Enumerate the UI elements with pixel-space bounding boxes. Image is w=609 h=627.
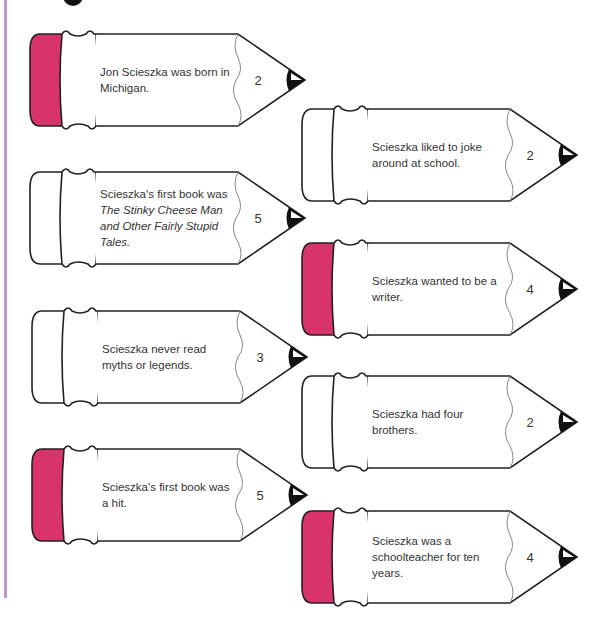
pencil-card-l1: Jon Scieszka was born in Michigan. 2 bbox=[26, 30, 308, 130]
pencil-card-l4: Scieszka's first book was a hit. 5 bbox=[28, 445, 310, 545]
pencil-statement: Scieszka liked to joke around at school. bbox=[372, 105, 508, 205]
pencil-number: 5 bbox=[248, 168, 268, 268]
pencil-number: 2 bbox=[248, 30, 268, 130]
pencil-statement: Scieszka wanted to be a writer. bbox=[372, 239, 508, 339]
pencil-statement: Scieszka's first book was The Stinky Che… bbox=[100, 168, 236, 268]
pencil-number: 5 bbox=[250, 445, 270, 545]
pencil-number: 2 bbox=[520, 105, 540, 205]
pencil-number: 3 bbox=[250, 307, 270, 407]
page-margin-rule bbox=[4, 0, 7, 598]
pencil-number: 4 bbox=[520, 507, 540, 607]
pencil-statement: Jon Scieszka was born in Michigan. bbox=[100, 30, 236, 130]
pencil-statement: Scieszka was a schoolteacher for ten yea… bbox=[372, 507, 508, 607]
pencil-statement: Scieszka had four brothers. bbox=[372, 372, 508, 472]
pencil-card-r4: Scieszka was a schoolteacher for ten yea… bbox=[298, 507, 580, 607]
pencil-card-r2: Scieszka wanted to be a writer. 4 bbox=[298, 239, 580, 339]
pencil-card-r1: Scieszka liked to joke around at school.… bbox=[298, 105, 580, 205]
pencil-card-r3: Scieszka had four brothers. 2 bbox=[298, 372, 580, 472]
pencil-statement: Scieszka never read myths or legends. bbox=[102, 307, 238, 407]
decorative-blob bbox=[63, 0, 83, 6]
pencil-card-l3: Scieszka never read myths or legends. 3 bbox=[28, 307, 310, 407]
pencil-number: 4 bbox=[520, 239, 540, 339]
pencil-number: 2 bbox=[520, 372, 540, 472]
pencil-statement: Scieszka's first book was a hit. bbox=[102, 445, 238, 545]
pencil-card-l2: Scieszka's first book was The Stinky Che… bbox=[26, 168, 308, 268]
